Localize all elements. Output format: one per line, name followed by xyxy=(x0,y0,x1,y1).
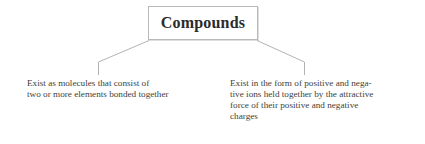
diagram-canvas: Compounds Exist as molecules that consis… xyxy=(0,0,425,144)
root-node-box: Compounds xyxy=(148,6,258,40)
connector-left xyxy=(99,41,150,76)
branch-left-description: Exist as molecules that consist of two o… xyxy=(27,78,217,100)
branch-right-line-1: Exist in the form of positive and nega- xyxy=(230,78,420,89)
branch-left-line-1: Exist as molecules that consist of xyxy=(27,78,217,89)
branch-right-line-2: tive ions held together by the attractiv… xyxy=(230,89,420,100)
branch-right-line-3: force of their positive and negative xyxy=(230,100,420,111)
connector-right xyxy=(257,41,305,76)
root-node-label: Compounds xyxy=(161,14,246,32)
branch-right-line-4: charges xyxy=(230,111,420,122)
branch-right-description: Exist in the form of positive and nega- … xyxy=(230,78,420,122)
branch-left-line-2: two or more elements bonded together xyxy=(27,89,217,100)
